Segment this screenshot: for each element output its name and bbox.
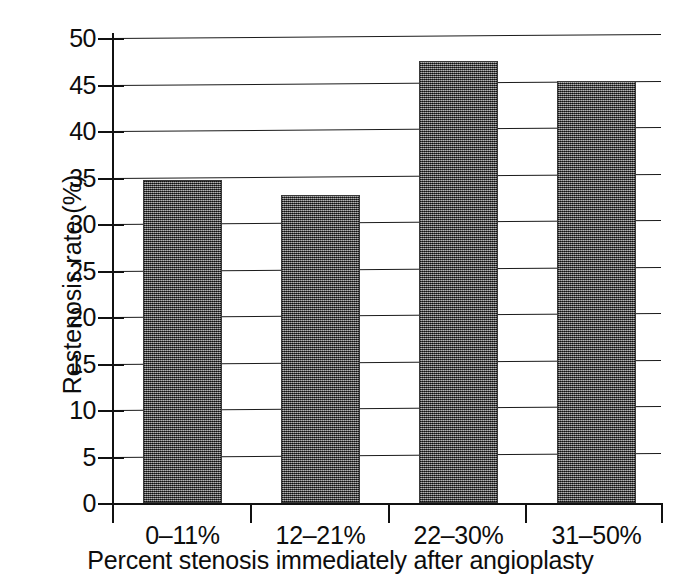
bar — [143, 180, 222, 503]
bar — [419, 61, 498, 503]
y-tick-mark — [98, 503, 124, 505]
x-tick-mark — [388, 503, 390, 523]
bar-chart-figure: 05101520253035404550 Restenosis rate (%)… — [0, 0, 681, 578]
bar-series — [112, 38, 661, 503]
x-tick-mark — [250, 503, 252, 523]
bar — [281, 195, 360, 503]
x-tick-mark — [525, 503, 527, 523]
y-tick-label: 50 — [44, 24, 96, 53]
x-tick-mark — [661, 503, 663, 523]
x-tick-mark — [112, 503, 114, 523]
bar — [557, 81, 636, 503]
x-axis-line — [108, 503, 661, 505]
y-axis-title: Restenosis rate (%) — [58, 75, 87, 495]
x-axis-title: Percent stenosis immediately after angio… — [0, 546, 681, 575]
